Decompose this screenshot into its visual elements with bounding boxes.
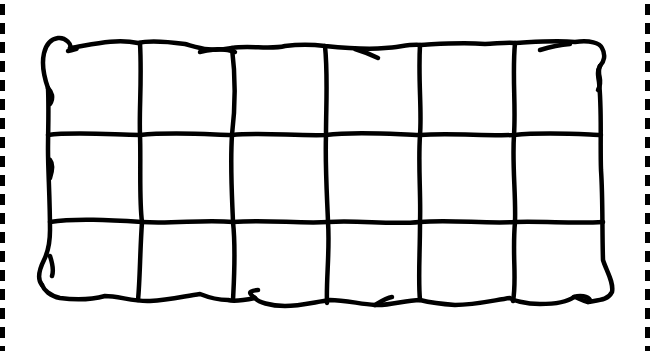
vertical-divider-3 [325, 46, 329, 303]
horizontal-divider-2 [50, 220, 603, 223]
horizontal-divider-1 [48, 133, 601, 135]
vertical-divider-1 [138, 43, 142, 300]
mattress-right-edge [588, 66, 612, 302]
mattress-bottom-edge [42, 285, 588, 306]
vertical-divider-5 [513, 43, 515, 301]
vertical-divider-2 [231, 48, 234, 300]
vertical-divider-4 [419, 45, 420, 300]
